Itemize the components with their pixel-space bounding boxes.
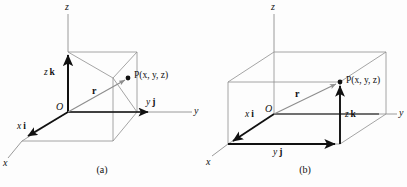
- axis-label-y-b: y: [399, 108, 403, 118]
- vector-r-a: [68, 80, 125, 112]
- label-zk-scalar-a: z: [44, 67, 48, 77]
- label-xi-scalar-a: x: [17, 121, 21, 131]
- label-origin-text-b: O: [265, 103, 272, 114]
- construction-lines-a: [22, 52, 137, 141]
- label-zk-scalar-b: z: [345, 109, 349, 119]
- label-r-text-b: r: [295, 88, 299, 99]
- label-r-b: r: [295, 89, 299, 99]
- point-p-marker-b: [338, 80, 343, 85]
- figure-root: z y x z k y j x i O r P(x, y, z) (a): [0, 0, 407, 187]
- label-r-a: r: [92, 86, 96, 96]
- vector-xi-a: [28, 112, 68, 136]
- x-axis-tail-a: [8, 141, 22, 158]
- label-yj-scalar-a: y: [146, 97, 150, 107]
- label-origin-b: O: [265, 104, 272, 114]
- label-zk-unit-a: k: [50, 67, 55, 77]
- axes-b: [233, 114, 379, 141]
- label-zk-b: z k: [345, 110, 356, 120]
- panel-b-graphic: [203, 0, 407, 187]
- label-xi-unit-a: i: [23, 121, 26, 131]
- label-origin-text-a: O: [56, 101, 63, 112]
- axis-label-y-a: y: [194, 106, 198, 116]
- panel-a-graphic: [0, 0, 204, 187]
- caption-b: (b): [203, 164, 407, 175]
- x-axis-tail-b: [212, 144, 228, 156]
- label-yj-unit-b: j: [279, 147, 282, 157]
- label-xi-a: x i: [17, 122, 26, 132]
- label-origin-a: O: [56, 102, 63, 112]
- label-yj-b: y j: [273, 148, 282, 158]
- panel-b: z y x z k y j x i O r P(x, y, z) (b): [203, 0, 407, 187]
- label-yj-scalar-b: y: [273, 147, 277, 157]
- vector-r-b: [274, 84, 336, 114]
- label-zk-unit-b: k: [351, 109, 356, 119]
- panel-a: z y x z k y j x i O r P(x, y, z) (a): [0, 0, 204, 187]
- label-zk-a: z k: [44, 68, 55, 78]
- label-xi-scalar-b: x: [245, 109, 249, 119]
- axis-label-z-a: z: [65, 2, 69, 12]
- label-xi-b: x i: [245, 110, 254, 120]
- label-xi-unit-b: i: [251, 109, 254, 119]
- caption-a: (a): [0, 164, 204, 175]
- label-point-p-a: P(x, y, z): [134, 71, 168, 81]
- label-yj-a: y j: [146, 98, 155, 108]
- label-r-text-a: r: [92, 85, 96, 96]
- label-yj-unit-a: j: [152, 97, 155, 107]
- point-p-marker-a: [126, 76, 131, 81]
- axis-label-z-b: z: [271, 2, 275, 12]
- label-point-p-b: P(x, y, z): [346, 76, 380, 86]
